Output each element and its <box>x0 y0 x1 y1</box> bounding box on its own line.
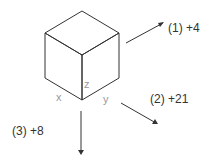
cube-top-face <box>45 11 119 55</box>
axis-label-z: z <box>84 78 90 90</box>
axis-label-y: y <box>103 93 109 105</box>
arrowhead-3-icon <box>78 150 84 155</box>
arrow-2 <box>121 103 156 123</box>
arrow-1 <box>126 23 163 43</box>
rotation-label-3: (3) +8 <box>12 124 44 138</box>
rotation-label-2: (2) +21 <box>150 92 188 106</box>
arrowhead-1-icon <box>158 22 164 27</box>
axis-label-x: x <box>56 91 62 103</box>
rotation-label-1: (1) +4 <box>168 21 200 35</box>
cube-left-face <box>45 33 82 100</box>
